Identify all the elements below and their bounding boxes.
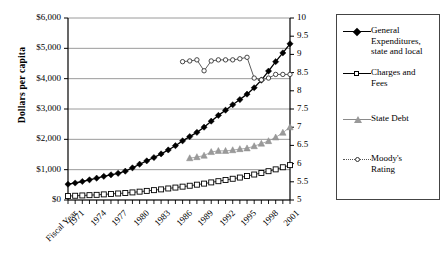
data-point-circle <box>202 69 206 73</box>
legend-label: State Debt <box>371 113 409 124</box>
data-point-triangle <box>265 138 271 144</box>
data-point-diamond <box>165 147 171 153</box>
data-point-circle <box>245 55 249 59</box>
open-square-icon <box>343 68 371 79</box>
data-point-diamond <box>137 161 143 167</box>
y-axis-left-tick-label: $4,000 <box>0 73 61 83</box>
data-point-square <box>130 190 135 195</box>
data-point-square <box>94 192 99 197</box>
data-point-circle <box>252 76 256 80</box>
data-point-diamond <box>108 172 114 178</box>
legend-label: Moody's Rating <box>371 153 402 174</box>
data-point-square <box>144 188 149 193</box>
data-point-diamond <box>151 154 157 160</box>
data-point-diamond <box>101 173 107 179</box>
legend-label-l1: Moody's <box>371 153 402 163</box>
data-point-circle <box>266 76 270 80</box>
data-point-circle <box>216 58 220 62</box>
y-axis-left-tick-label: $1,000 <box>0 164 61 174</box>
data-point-diamond <box>122 168 128 174</box>
data-point-square <box>237 175 242 180</box>
data-point-circle <box>188 59 192 63</box>
data-point-diamond <box>94 175 100 181</box>
data-point-circle <box>223 58 227 62</box>
data-point-square <box>245 174 250 179</box>
y-axis-right-tick-label: 5.5 <box>297 176 308 186</box>
legend-label-l1: Charges and <box>371 67 416 77</box>
data-point-diamond <box>65 181 71 187</box>
legend-item-moodys-rating: Moody's Rating <box>343 153 402 174</box>
y-axis-right-tick-label: 5 <box>297 194 302 204</box>
data-point-circle <box>209 59 213 63</box>
data-point-square <box>187 183 192 188</box>
data-point-circle <box>273 72 277 76</box>
filled-diamond-icon <box>343 26 371 37</box>
data-point-circle <box>195 58 199 62</box>
data-point-square <box>101 192 106 197</box>
legend-item-general-expenditures: General Expenditures, state and local <box>343 25 422 57</box>
legend-label-l2: Rating <box>371 164 395 174</box>
data-point-square <box>194 182 199 187</box>
legend-item-charges-and-fees: Charges and Fees <box>343 67 416 88</box>
data-point-square <box>252 172 257 177</box>
data-point-square <box>80 193 85 198</box>
data-point-square <box>280 165 285 170</box>
data-point-diamond <box>86 177 92 183</box>
filled-triangle-icon <box>343 114 371 125</box>
data-point-diamond <box>79 178 85 184</box>
data-point-circle <box>231 58 235 62</box>
data-point-square <box>223 177 228 182</box>
data-point-square <box>202 181 207 186</box>
data-point-square <box>273 167 278 172</box>
data-point-square <box>166 186 171 191</box>
data-point-square <box>266 169 271 174</box>
data-point-square <box>73 193 78 198</box>
chart-legend: General Expenditures, state and local Ch… <box>336 14 440 200</box>
data-point-square <box>230 176 235 181</box>
data-point-square <box>159 187 164 192</box>
y-axis-left-tick-label: $2,000 <box>0 133 61 143</box>
legend-label-l1: General <box>371 25 399 35</box>
data-point-circle <box>281 72 285 76</box>
data-point-square <box>288 163 293 168</box>
data-point-diamond <box>72 180 78 186</box>
y-axis-right-tick-label: 9.5 <box>297 30 308 40</box>
y-axis-right-tick-label: 8.5 <box>297 67 308 77</box>
data-point-square <box>123 191 128 196</box>
y-axis-right-tick-label: 9 <box>297 48 302 58</box>
legend-label-l2: Expenditures, <box>371 36 421 46</box>
legend-label-l2: Fees <box>371 78 388 88</box>
data-point-square <box>173 185 178 190</box>
open-circle-icon <box>343 154 371 165</box>
data-point-diamond <box>115 170 121 176</box>
legend-label-l1: State Debt <box>371 113 409 123</box>
legend-item-state-debt: State Debt <box>343 113 409 125</box>
y-axis-right-tick-label: 6 <box>297 158 302 168</box>
y-axis-right-tick-label: 7 <box>297 121 302 131</box>
data-point-square <box>216 179 221 184</box>
y-axis-right-tick-label: 7.5 <box>297 103 308 113</box>
data-point-diamond <box>187 134 193 140</box>
data-point-triangle <box>280 129 286 135</box>
data-point-diamond <box>158 151 164 157</box>
data-point-circle <box>180 59 184 63</box>
data-point-square <box>66 194 71 199</box>
data-point-diamond <box>144 158 150 164</box>
legend-label-l3: state and local <box>371 46 422 56</box>
legend-label: General Expenditures, state and local <box>371 25 422 57</box>
data-point-square <box>151 188 156 193</box>
y-axis-left-tick-label: $0 <box>0 194 61 204</box>
y-axis-right-tick-label: 8 <box>297 85 302 95</box>
data-point-square <box>116 191 121 196</box>
legend-label: Charges and Fees <box>371 67 416 88</box>
series-line-0 <box>68 44 290 184</box>
data-point-square <box>209 180 214 185</box>
data-point-circle <box>259 78 263 82</box>
data-point-square <box>259 171 264 176</box>
data-point-circle <box>238 57 242 61</box>
data-point-triangle <box>201 152 207 158</box>
data-point-square <box>87 193 92 198</box>
y-axis-left-tick-label: $6,000 <box>0 12 61 22</box>
y-axis-right-tick-label: 10 <box>297 12 306 22</box>
data-point-square <box>180 184 185 189</box>
